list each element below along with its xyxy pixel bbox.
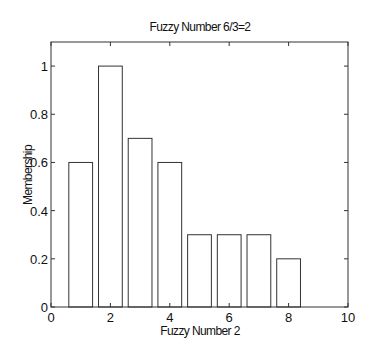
y-tick-label: 0.2 <box>30 252 48 267</box>
x-tick-label: 4 <box>166 310 173 325</box>
bar <box>247 235 271 307</box>
chart-title: Fuzzy Number 6/3=2 <box>150 20 252 34</box>
bar <box>99 66 123 307</box>
x-tick-label: 10 <box>341 310 355 325</box>
x-axis-label: Fuzzy Number 2 <box>160 324 241 338</box>
y-tick-label: 0.8 <box>30 107 48 122</box>
y-tick-label: 0 <box>41 300 48 315</box>
bar <box>128 138 152 307</box>
bar <box>158 162 182 307</box>
bar <box>217 235 241 307</box>
bars-group <box>69 66 301 307</box>
x-tick-label: 2 <box>107 310 114 325</box>
bar-chart: Fuzzy Number 6/3=2 0246810 00.20.40.60.8… <box>0 0 368 356</box>
y-axis-label: Membership <box>21 144 35 205</box>
bar <box>188 235 212 307</box>
x-tick-label: 6 <box>226 310 233 325</box>
bar <box>69 162 93 307</box>
x-tick-label: 0 <box>47 310 54 325</box>
y-tick-label: 1 <box>41 59 48 74</box>
x-tick-label: 8 <box>285 310 292 325</box>
bar <box>277 259 301 307</box>
